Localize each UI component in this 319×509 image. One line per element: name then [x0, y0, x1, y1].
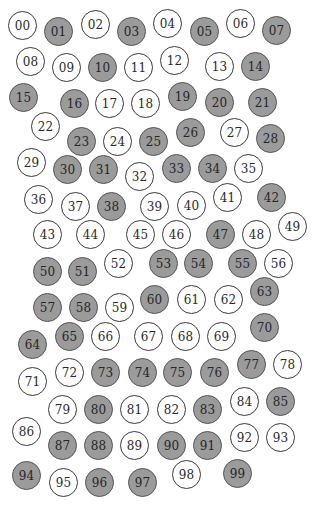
circle-66-empty[interactable]: 66: [91, 322, 120, 351]
circle-12-empty[interactable]: 12: [160, 46, 189, 75]
circle-10-filled[interactable]: 10: [88, 53, 117, 82]
circle-08-empty[interactable]: 08: [16, 47, 45, 76]
circle-47-filled[interactable]: 47: [206, 220, 235, 249]
circle-97-filled[interactable]: 97: [128, 468, 157, 497]
circle-63-filled[interactable]: 63: [250, 277, 279, 306]
circle-46-empty[interactable]: 46: [162, 220, 191, 249]
circle-82-empty[interactable]: 82: [157, 395, 186, 424]
circle-30-filled[interactable]: 30: [53, 155, 82, 184]
circle-38-filled[interactable]: 38: [97, 192, 126, 221]
circle-69-empty[interactable]: 69: [207, 322, 236, 351]
circle-21-filled[interactable]: 21: [248, 88, 277, 117]
circle-77-filled[interactable]: 77: [237, 350, 266, 379]
circle-43-empty[interactable]: 43: [33, 220, 62, 249]
circle-76-filled[interactable]: 76: [200, 358, 229, 387]
circle-59-empty[interactable]: 59: [105, 293, 134, 322]
circle-40-empty[interactable]: 40: [177, 191, 206, 220]
circle-05-filled[interactable]: 05: [190, 17, 219, 46]
circle-81-empty[interactable]: 81: [120, 395, 149, 424]
circle-02-empty[interactable]: 02: [81, 10, 110, 39]
circle-41-empty[interactable]: 41: [213, 183, 242, 212]
circle-24-empty[interactable]: 24: [103, 127, 132, 156]
circle-85-filled[interactable]: 85: [266, 387, 295, 416]
circle-11-empty[interactable]: 11: [124, 53, 153, 82]
circle-07-filled[interactable]: 07: [262, 16, 291, 45]
circle-60-filled[interactable]: 60: [140, 285, 169, 314]
circle-72-empty[interactable]: 72: [55, 358, 84, 387]
circle-55-filled[interactable]: 55: [228, 249, 257, 278]
circle-22-empty[interactable]: 22: [31, 112, 60, 141]
circle-34-filled[interactable]: 34: [198, 154, 227, 183]
circle-88-filled[interactable]: 88: [84, 431, 113, 460]
circle-68-empty[interactable]: 68: [171, 322, 200, 351]
circle-25-filled[interactable]: 25: [139, 127, 168, 156]
circle-42-filled[interactable]: 42: [257, 183, 286, 212]
circle-00-empty[interactable]: 00: [8, 11, 37, 40]
circle-06-empty[interactable]: 06: [226, 9, 255, 38]
circle-79-empty[interactable]: 79: [48, 395, 77, 424]
circle-71-empty[interactable]: 71: [18, 367, 47, 396]
circle-62-empty[interactable]: 62: [214, 285, 243, 314]
circle-74-filled[interactable]: 74: [128, 358, 157, 387]
circle-19-filled[interactable]: 19: [168, 82, 197, 111]
circle-13-empty[interactable]: 13: [205, 52, 234, 81]
circle-33-filled[interactable]: 33: [162, 154, 191, 183]
circle-75-filled[interactable]: 75: [163, 358, 192, 387]
circle-94-filled[interactable]: 94: [12, 461, 41, 490]
circle-15-filled[interactable]: 15: [9, 83, 38, 112]
circle-50-filled[interactable]: 50: [33, 257, 62, 286]
circle-18-empty[interactable]: 18: [131, 89, 160, 118]
circle-27-empty[interactable]: 27: [220, 118, 249, 147]
circle-70-filled[interactable]: 70: [250, 313, 279, 342]
circle-09-empty[interactable]: 09: [52, 53, 81, 82]
circle-87-filled[interactable]: 87: [48, 431, 77, 460]
circle-73-filled[interactable]: 73: [91, 358, 120, 387]
circle-32-empty[interactable]: 32: [125, 162, 154, 191]
circle-86-empty[interactable]: 86: [12, 417, 41, 446]
circle-51-filled[interactable]: 51: [68, 257, 97, 286]
circle-29-empty[interactable]: 29: [17, 148, 46, 177]
circle-20-filled[interactable]: 20: [205, 88, 234, 117]
circle-23-filled[interactable]: 23: [67, 127, 96, 156]
circle-57-filled[interactable]: 57: [33, 293, 62, 322]
circle-52-empty[interactable]: 52: [104, 249, 133, 278]
circle-39-empty[interactable]: 39: [140, 192, 169, 221]
circle-80-filled[interactable]: 80: [84, 395, 113, 424]
circle-54-filled[interactable]: 54: [184, 249, 213, 278]
circle-36-empty[interactable]: 36: [24, 185, 53, 214]
circle-35-empty[interactable]: 35: [234, 154, 263, 183]
circle-64-filled[interactable]: 64: [18, 330, 47, 359]
circle-83-filled[interactable]: 83: [193, 395, 222, 424]
circle-14-filled[interactable]: 14: [241, 52, 270, 81]
circle-98-empty[interactable]: 98: [172, 460, 201, 489]
circle-31-filled[interactable]: 31: [89, 155, 118, 184]
circle-28-filled[interactable]: 28: [256, 124, 285, 153]
circle-44-empty[interactable]: 44: [76, 220, 105, 249]
circle-65-filled[interactable]: 65: [55, 322, 84, 351]
circle-93-empty[interactable]: 93: [266, 423, 295, 452]
circle-99-filled[interactable]: 99: [223, 459, 252, 488]
circle-53-filled[interactable]: 53: [149, 249, 178, 278]
circle-48-empty[interactable]: 48: [242, 220, 271, 249]
circle-45-empty[interactable]: 45: [126, 220, 155, 249]
circle-61-empty[interactable]: 61: [177, 285, 206, 314]
circle-03-filled[interactable]: 03: [117, 17, 146, 46]
circle-90-filled[interactable]: 90: [157, 431, 186, 460]
circle-91-filled[interactable]: 91: [193, 431, 222, 460]
circle-96-filled[interactable]: 96: [85, 468, 114, 497]
circle-04-empty[interactable]: 04: [153, 9, 182, 38]
circle-95-empty[interactable]: 95: [49, 468, 78, 497]
circle-17-empty[interactable]: 17: [95, 89, 124, 118]
circle-78-empty[interactable]: 78: [273, 350, 302, 379]
circle-89-empty[interactable]: 89: [120, 431, 149, 460]
circle-26-filled[interactable]: 26: [176, 118, 205, 147]
circle-67-empty[interactable]: 67: [134, 322, 163, 351]
circle-84-empty[interactable]: 84: [230, 387, 259, 416]
circle-49-empty[interactable]: 49: [278, 212, 307, 241]
circle-37-empty[interactable]: 37: [61, 192, 90, 221]
circle-92-empty[interactable]: 92: [230, 423, 259, 452]
circle-01-filled[interactable]: 01: [44, 17, 73, 46]
circle-16-filled[interactable]: 16: [60, 89, 89, 118]
circle-56-empty[interactable]: 56: [264, 249, 293, 278]
circle-58-filled[interactable]: 58: [69, 293, 98, 322]
